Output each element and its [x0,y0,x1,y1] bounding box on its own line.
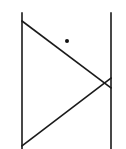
lower-diagonal-line [22,78,111,146]
dot-point [65,39,69,43]
geometric-diagram [0,0,126,149]
upper-diagonal-line [22,21,111,88]
